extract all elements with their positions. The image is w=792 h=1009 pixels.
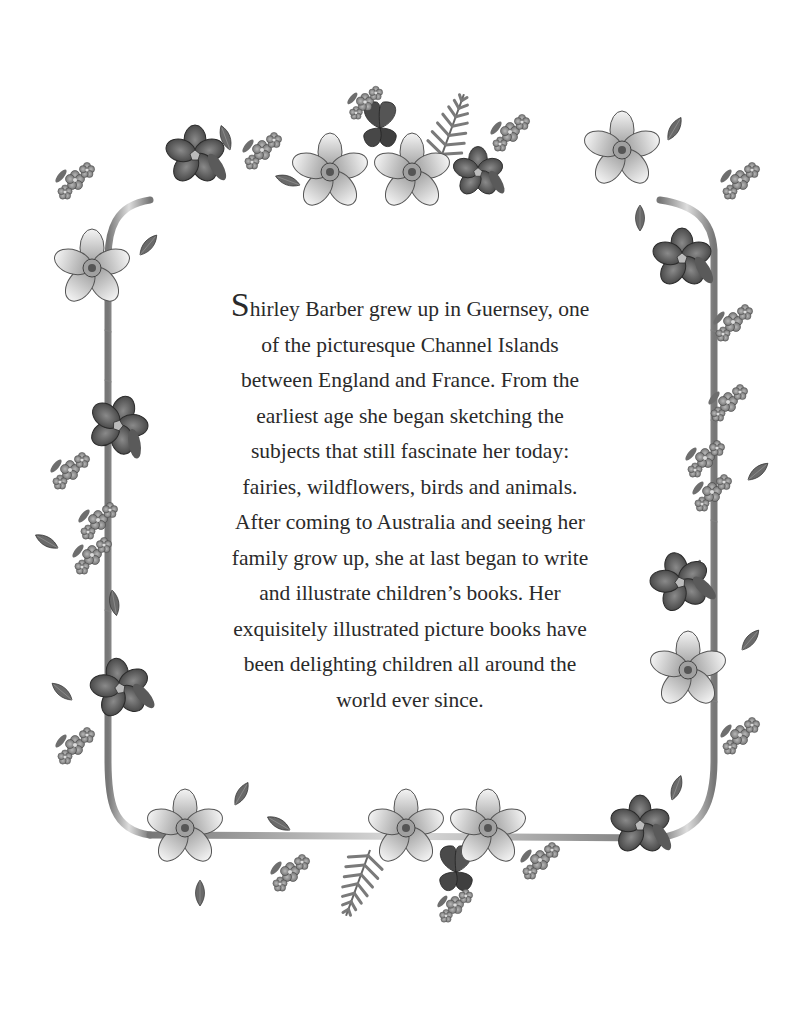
bio-line-11: been delighting children all around the bbox=[190, 647, 630, 683]
right-garland bbox=[641, 228, 770, 754]
bio-line-2: of the picturesque Channel Islands bbox=[190, 328, 630, 364]
bio-line-9: and illustrate children’s books. Her bbox=[190, 576, 630, 612]
bio-line-1: Shirley Barber grew up in Guernsey, one bbox=[190, 290, 630, 328]
bio-line-6: fairies, wildflowers, birds and animals. bbox=[190, 470, 630, 506]
top-garland bbox=[54, 86, 760, 231]
bio-line-12: world ever since. bbox=[190, 683, 630, 719]
bio-line-7: After coming to Australia and seeing her bbox=[190, 505, 630, 541]
author-bio: Shirley Barber grew up in Guernsey, one … bbox=[190, 290, 630, 718]
bio-line-3: between England and France. From the bbox=[190, 363, 630, 399]
bottom-garland bbox=[144, 774, 685, 922]
drop-cap: S bbox=[231, 286, 250, 323]
bio-line-4: earliest age she began sketching the bbox=[190, 399, 630, 435]
bio-line-5: subjects that still fascinate her today: bbox=[190, 434, 630, 470]
bio-line-8: family grow up, she at last began to wri… bbox=[190, 541, 630, 577]
left-garland bbox=[33, 229, 161, 764]
book-page: Shirley Barber grew up in Guernsey, one … bbox=[0, 0, 792, 1009]
bio-line-10: exquisitely illustrated picture books ha… bbox=[190, 612, 630, 648]
